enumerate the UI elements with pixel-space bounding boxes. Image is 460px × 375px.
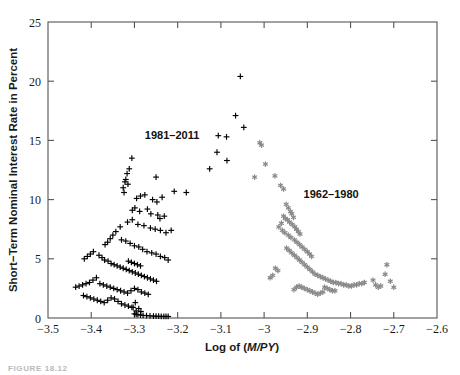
- data-point-plus-8: [129, 155, 135, 161]
- data-point-plus-85: [135, 262, 141, 268]
- data-point-plus-76: [132, 270, 138, 276]
- plot-frame: [48, 22, 437, 318]
- y-tick-label-3: 15: [29, 134, 41, 148]
- data-point-plus-69: [111, 262, 117, 268]
- data-point-plus-123: [122, 302, 128, 308]
- y-tick-label-1: 5: [35, 252, 41, 266]
- data-point-plus-116: [98, 299, 104, 305]
- data-point-plus-19: [142, 192, 148, 198]
- data-point-plus-101: [114, 287, 120, 293]
- data-point-plus-96: [97, 281, 103, 287]
- data-point-plus-124: [125, 303, 131, 309]
- data-point-plus-99: [107, 284, 113, 290]
- data-point-plus-2: [241, 124, 247, 130]
- data-point-asterisk-4: [273, 174, 277, 179]
- data-point-plus-93: [80, 282, 86, 288]
- data-point-plus-113: [87, 295, 93, 301]
- series-annotation-1981-2011: 1981–2011: [145, 129, 199, 141]
- data-point-plus-87: [129, 259, 135, 265]
- data-point-plus-42: [117, 224, 123, 230]
- data-point-plus-41: [168, 227, 174, 233]
- data-point-plus-100: [111, 286, 117, 292]
- data-point-asterisk-6: [282, 187, 286, 192]
- data-point-plus-3: [215, 133, 221, 139]
- y-axis-ticks: [48, 81, 437, 259]
- data-point-plus-16: [153, 174, 159, 180]
- data-point-plus-48: [119, 237, 125, 243]
- data-point-plus-70: [114, 263, 120, 269]
- data-point-plus-98: [104, 283, 110, 289]
- series-1962-1980: [253, 140, 396, 296]
- data-point-plus-79: [141, 274, 147, 280]
- y-tick-label-2: 10: [29, 193, 41, 207]
- data-point-plus-40: [163, 230, 169, 236]
- y-axis-tick-labels: 0510152025: [29, 16, 41, 326]
- data-point-plus-74: [126, 268, 132, 274]
- data-point-plus-97: [100, 282, 106, 288]
- data-point-plus-28: [145, 206, 151, 212]
- series-annotation-1962-1980: 1962–1980: [304, 188, 359, 200]
- x-axis-title-suffix: ): [275, 341, 279, 353]
- data-point-plus-36: [141, 223, 147, 229]
- data-point-plus-1: [233, 113, 239, 119]
- data-point-plus-109: [142, 290, 148, 296]
- data-point-plus-24: [159, 194, 165, 200]
- data-point-plus-27: [137, 209, 143, 215]
- data-point-plus-55: [149, 250, 155, 256]
- data-point-plus-78: [138, 272, 144, 278]
- y-tick-label-4: 20: [29, 75, 41, 89]
- x-tick-label-9: −2.6: [426, 322, 448, 336]
- scatter-plot: −3.5−3.4−3.3−3.2−3.1−3−2.9−2.8−2.7−2.6 0…: [0, 0, 460, 375]
- data-point-plus-84: [132, 261, 138, 267]
- data-point-plus-75: [129, 269, 135, 275]
- y-tick-label-0: 0: [35, 312, 41, 326]
- x-axis-title: Log of (M/PY): [205, 341, 279, 353]
- x-tick-label-4: −3.1: [210, 322, 232, 336]
- data-point-plus-43: [113, 229, 119, 235]
- data-point-asterisk-21: [279, 221, 283, 226]
- figure-container: −3.5−3.4−3.3−3.2−3.1−3−2.9−2.8−2.7−2.6 0…: [0, 0, 460, 375]
- data-point-plus-83: [154, 278, 160, 284]
- x-tick-label-1: −3.4: [80, 322, 102, 336]
- x-tick-label-2: −3.3: [124, 322, 146, 336]
- x-axis-tick-labels: −3.5−3.4−3.3−3.2−3.1−3−2.9−2.8−2.7−2.6: [37, 322, 448, 336]
- data-point-plus-88: [125, 258, 131, 264]
- data-point-plus-115: [94, 297, 100, 303]
- data-point-plus-94: [76, 283, 82, 289]
- data-point-asterisk-22: [277, 225, 281, 230]
- data-point-plus-4: [224, 134, 230, 140]
- data-point-plus-81: [148, 276, 154, 282]
- data-point-asterisk-5: [279, 183, 283, 188]
- data-point-plus-102: [118, 288, 124, 294]
- data-point-plus-17: [171, 188, 177, 194]
- x-axis-title-prefix: Log of (: [205, 341, 247, 353]
- data-point-plus-73: [123, 267, 129, 273]
- data-point-plus-39: [157, 227, 163, 233]
- data-point-plus-6: [224, 158, 230, 164]
- data-point-plus-92: [83, 281, 89, 287]
- data-point-plus-110: [145, 291, 151, 297]
- y-tick-label-5: 25: [29, 16, 41, 30]
- data-point-asterisk-83: [383, 272, 387, 277]
- data-point-plus-72: [120, 265, 126, 271]
- data-point-plus-5: [214, 149, 220, 155]
- data-point-asterisk-86: [392, 285, 396, 290]
- data-point-plus-38: [152, 226, 158, 232]
- data-point-plus-114: [91, 296, 97, 302]
- data-point-plus-80: [145, 275, 151, 281]
- data-point-asterisk-8: [286, 206, 290, 211]
- x-axis-ticks: [91, 22, 394, 318]
- data-point-plus-35: [135, 222, 141, 228]
- x-tick-label-8: −2.7: [383, 322, 405, 336]
- data-point-plus-112: [84, 294, 90, 300]
- data-point-plus-71: [117, 264, 123, 270]
- data-point-plus-86: [138, 263, 144, 269]
- data-point-plus-95: [73, 284, 79, 290]
- y-axis-title: Short−Term Nominal Interest Rate in Perc…: [7, 48, 19, 292]
- data-point-plus-82: [151, 277, 157, 283]
- x-tick-label-5: −3: [258, 322, 271, 336]
- data-point-plus-37: [148, 225, 154, 231]
- data-point-plus-103: [121, 289, 127, 295]
- figure-caption: FIGURE 18.12: [8, 364, 68, 373]
- x-tick-label-6: −2.9: [296, 322, 318, 336]
